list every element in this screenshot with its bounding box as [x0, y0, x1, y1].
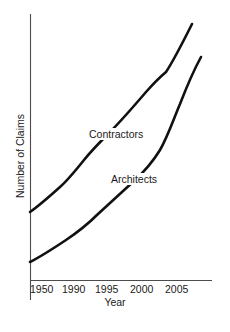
series-label-contractors: Contractors	[88, 128, 144, 140]
x-tick-label-2000: 2000	[130, 283, 153, 295]
y-axis-title-wrapper: Number of Claims	[14, 66, 30, 246]
x-tick-label-1950: 1950	[30, 283, 53, 295]
series-line-architects	[30, 57, 201, 262]
x-tick-label-2005: 2005	[165, 283, 188, 295]
x-tick-label-1995: 1995	[95, 283, 118, 295]
x-axis-title: Year	[0, 296, 230, 308]
x-tick-label-1990: 1990	[62, 283, 85, 295]
chart-figure: 1950 1990 1995 2000 2005 Year Number of …	[0, 0, 230, 332]
series-label-architects: Architects	[110, 173, 158, 185]
y-axis-title: Number of Claims	[14, 66, 26, 246]
